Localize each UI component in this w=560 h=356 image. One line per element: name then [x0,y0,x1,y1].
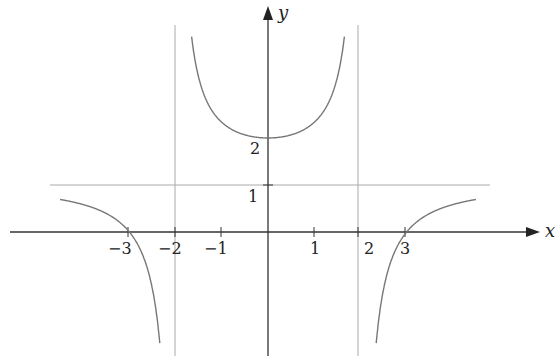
graph-svg [0,0,560,356]
tick-label-1: 1 [310,241,320,257]
y-tick-label-1: 1 [248,189,258,205]
tick-label-3: 3 [400,241,410,257]
tick-label-neg1: −1 [204,241,228,257]
tick-label-2: 2 [364,241,374,257]
graph-container: y x −3 −2 −1 1 2 3 1 2 [0,0,560,356]
tick-label-neg3: −3 [108,241,132,257]
x-axis-label: x [545,222,555,240]
y-axis-label: y [278,4,288,22]
curve-left-branch [60,200,160,344]
y-tick-label-2: 2 [250,141,260,157]
tick-label-neg2: −2 [158,241,182,257]
curve-right-branch [376,200,476,344]
x-axis-arrow-icon [526,227,540,237]
y-axis-arrow-icon [263,6,273,20]
